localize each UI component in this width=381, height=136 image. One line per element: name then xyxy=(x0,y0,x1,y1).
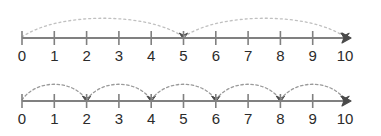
tick-label-2: 2 xyxy=(72,111,102,127)
number-line-figure: 012345678910 012345678910 xyxy=(0,0,381,136)
bottom-axis-group xyxy=(22,94,351,108)
tick-label-1: 1 xyxy=(39,48,69,64)
tick-label-8: 8 xyxy=(265,48,295,64)
tick-label-7: 7 xyxy=(233,111,263,127)
tick-label-7: 7 xyxy=(233,48,263,64)
tick-label-9: 9 xyxy=(298,48,328,64)
tick-label-10: 10 xyxy=(330,48,360,64)
tick-label-4: 4 xyxy=(136,48,166,64)
jump-arc-0-to-5 xyxy=(22,18,184,37)
tick-label-6: 6 xyxy=(201,111,231,127)
tick-label-4: 4 xyxy=(136,111,166,127)
tick-label-0: 0 xyxy=(7,48,37,64)
tick-label-3: 3 xyxy=(104,111,134,127)
top-axis-group xyxy=(22,31,351,45)
number-line-top: 012345678910 xyxy=(0,0,381,68)
tick-label-2: 2 xyxy=(72,48,102,64)
jump-arc-5-to-10 xyxy=(184,18,346,37)
top-arcs-group xyxy=(22,18,349,39)
number-line-bottom: 012345678910 xyxy=(0,68,381,136)
tick-label-6: 6 xyxy=(201,48,231,64)
tick-label-1: 1 xyxy=(39,111,69,127)
tick-label-9: 9 xyxy=(298,111,328,127)
tick-label-3: 3 xyxy=(104,48,134,64)
tick-label-8: 8 xyxy=(265,111,295,127)
tick-label-5: 5 xyxy=(169,48,199,64)
tick-label-5: 5 xyxy=(169,111,199,127)
bottom-arcs-group xyxy=(22,84,349,102)
tick-label-10: 10 xyxy=(330,111,360,127)
tick-label-0: 0 xyxy=(7,111,37,127)
